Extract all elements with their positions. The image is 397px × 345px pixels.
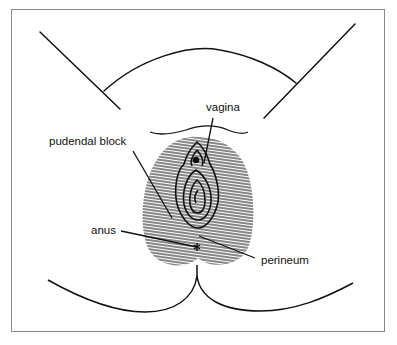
left-thigh-line	[40, 32, 120, 109]
lower-abdomen-arc	[104, 49, 296, 91]
label-vagina: vagina	[206, 102, 240, 114]
pubic-line	[150, 126, 248, 134]
label-anus: anus	[91, 225, 116, 237]
label-perineum: perineum	[261, 255, 309, 267]
anatomy-drawing	[0, 0, 397, 345]
pudendal-block-diagram: vagina pudendal block anus perineum	[0, 0, 397, 345]
clitoris	[194, 158, 199, 163]
thigh-outlines	[40, 24, 355, 118]
pudendal-block-region	[130, 130, 270, 280]
label-pudendal-block: pudendal block	[49, 136, 126, 148]
right-buttock-curve	[197, 276, 353, 311]
left-buttock-curve	[48, 276, 197, 312]
